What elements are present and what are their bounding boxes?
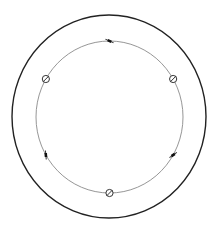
circle-slash-icon — [42, 75, 49, 82]
inner-circle — [36, 41, 183, 193]
circle-slash-icon — [170, 75, 177, 82]
circle-slash-icon — [106, 189, 113, 196]
outer-circle — [12, 15, 206, 218]
tick-mark-icon — [169, 152, 176, 157]
ring-diagram — [0, 0, 219, 229]
marker-group — [42, 39, 177, 197]
tick-mark-icon — [44, 151, 47, 160]
